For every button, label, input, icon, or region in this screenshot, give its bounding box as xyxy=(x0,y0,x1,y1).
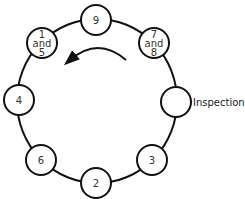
node-label: 6 xyxy=(38,155,44,166)
node-n4: 4 xyxy=(4,85,34,115)
node-circle xyxy=(161,87,191,117)
node-label: 5 xyxy=(39,47,45,58)
node-label: 3 xyxy=(149,155,155,166)
direction-arrow xyxy=(70,48,126,60)
node-label: 8 xyxy=(151,47,157,58)
inspection-label: Inspection xyxy=(193,97,245,108)
node-ninsp: Inspection xyxy=(161,87,245,117)
node-n2: 2 xyxy=(81,168,111,198)
node-n6: 6 xyxy=(26,145,56,175)
node-n15: 1and5 xyxy=(27,28,57,58)
cycle-diagram: 97and8Inspection32641and5 xyxy=(0,0,245,199)
node-n3: 3 xyxy=(137,145,167,175)
nodes-group: 97and8Inspection32641and5 xyxy=(4,5,245,198)
node-n9: 9 xyxy=(81,5,111,35)
node-label: 4 xyxy=(16,95,22,106)
node-n78: 7and8 xyxy=(139,28,169,58)
node-label: 2 xyxy=(93,178,99,189)
node-label: 9 xyxy=(93,15,99,26)
